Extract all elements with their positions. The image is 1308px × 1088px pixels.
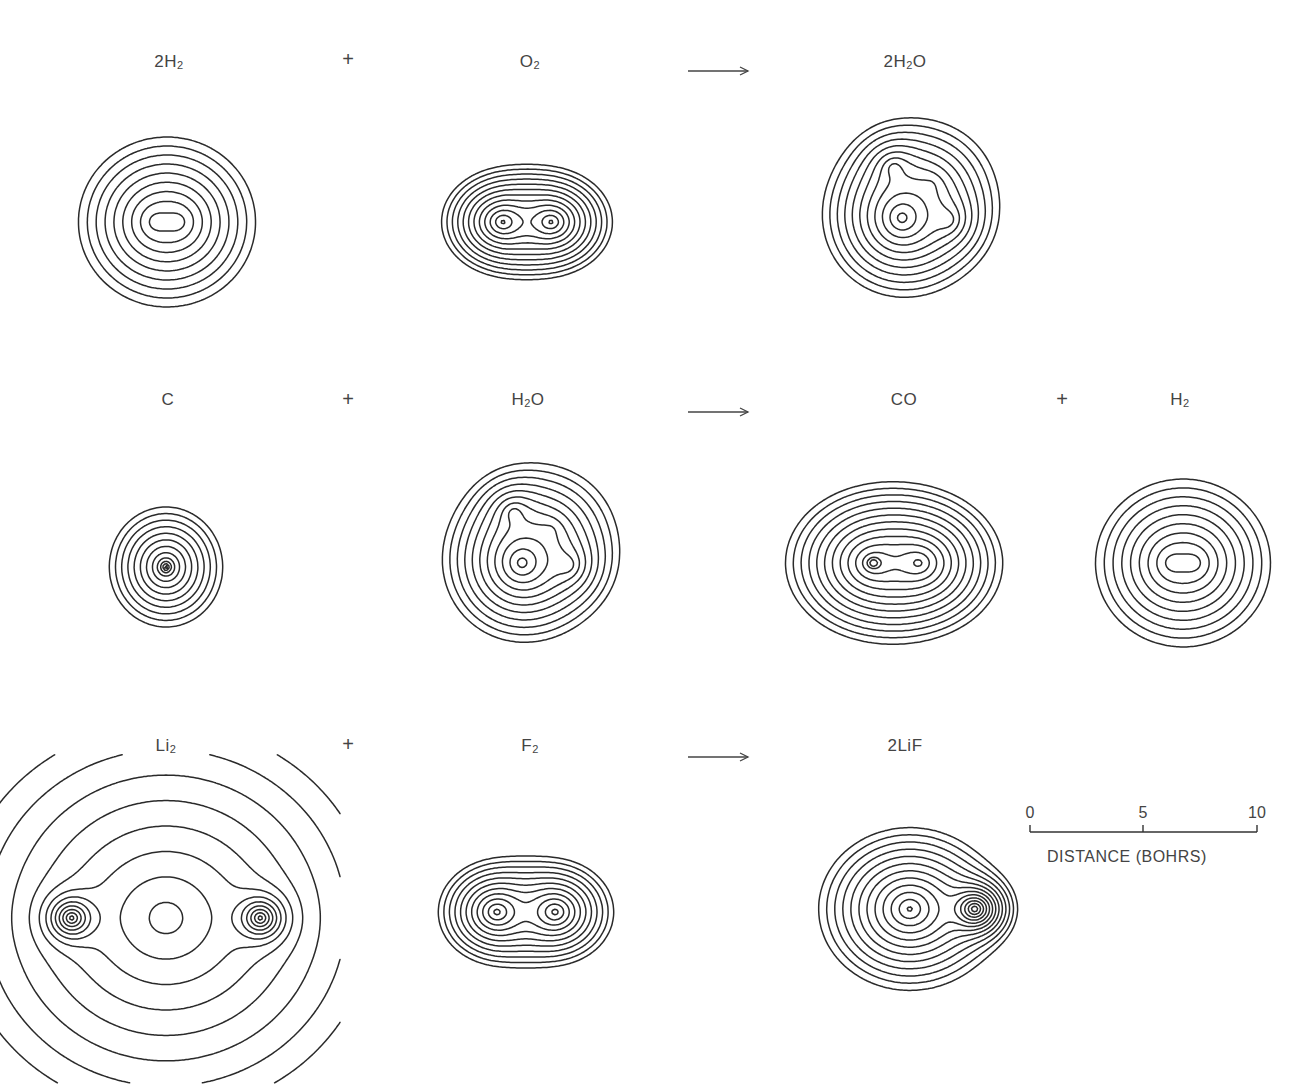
species-formula: F xyxy=(521,736,532,755)
species-subscript: 2 xyxy=(170,743,177,755)
contour-map-h2o-row1 xyxy=(822,118,999,297)
species-formula: H xyxy=(511,390,524,409)
contour-map-h2-row2 xyxy=(1096,479,1271,647)
species-formula: C xyxy=(162,390,175,409)
scale-tick-label: 0 xyxy=(1026,804,1035,822)
species-suffix: O xyxy=(531,390,545,409)
plus-operator: + xyxy=(342,733,354,756)
contour-map-h2-row1 xyxy=(79,137,256,307)
species-label: C xyxy=(162,390,175,410)
contour-maps-layer xyxy=(0,0,1308,1088)
species-label: H2 xyxy=(1170,390,1189,410)
species-subscript: 2 xyxy=(532,743,539,755)
scale-bar-line xyxy=(1030,825,1257,832)
plus-operator: + xyxy=(342,48,354,71)
species-label: H2O xyxy=(511,390,544,410)
species-label: O2 xyxy=(520,52,540,72)
species-label: CO xyxy=(891,390,918,410)
contour-map-c xyxy=(109,507,222,627)
scale-title: DISTANCE (BOHRS) xyxy=(1047,848,1207,866)
species-formula: H xyxy=(1170,390,1183,409)
species-formula: CO xyxy=(891,390,918,409)
species-formula: O xyxy=(520,52,534,71)
plus-operator: + xyxy=(1056,388,1068,411)
contour-map-co xyxy=(786,482,1003,645)
reaction-arrow-icon xyxy=(688,408,748,416)
species-subscript: 2 xyxy=(1183,397,1190,409)
species-label: 2H2O xyxy=(883,52,926,72)
contour-map-lif xyxy=(819,828,1018,991)
species-formula: 2LiF xyxy=(887,736,922,755)
plus-operator: + xyxy=(342,388,354,411)
reaction-arrow-icon xyxy=(688,67,748,75)
contour-map-h2o-row2 xyxy=(442,463,619,643)
contour-map-f2 xyxy=(438,856,613,968)
reaction-arrow-icon xyxy=(688,753,748,761)
species-suffix: O xyxy=(913,52,927,71)
contour-map-o2 xyxy=(442,164,613,279)
species-formula: Li xyxy=(156,736,170,755)
species-label: Li2 xyxy=(156,736,177,756)
species-label: F2 xyxy=(521,736,539,756)
species-subscript: 2 xyxy=(177,59,184,71)
scale-tick-label: 5 xyxy=(1139,804,1148,822)
species-label: 2LiF xyxy=(887,736,922,756)
scale-tick-label: 10 xyxy=(1248,804,1266,822)
species-formula: 2H xyxy=(154,52,177,71)
electron-density-figure: 2H2+O22H2OC+H2OCO+H2Li2+F22LiF 0510DISTA… xyxy=(0,0,1308,1088)
contour-map-li2 xyxy=(0,755,340,1083)
species-formula: 2H xyxy=(883,52,906,71)
species-label: 2H2 xyxy=(154,52,183,72)
species-subscript: 2 xyxy=(534,59,541,71)
